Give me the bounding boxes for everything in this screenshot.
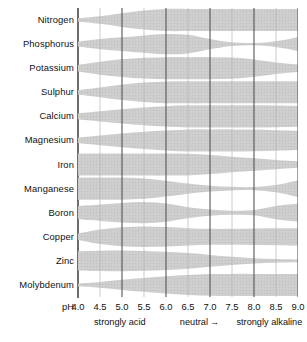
nutrient-label-magnesium: Magnesium <box>0 135 74 145</box>
x-tick-6.0: 6.0 <box>159 301 172 312</box>
axis-caption-text: strongly acid <box>94 317 146 327</box>
x-tick-9.0: 9.0 <box>291 301 304 312</box>
x-tick-6.5: 6.5 <box>181 301 194 312</box>
x-tick-8.0: 8.0 <box>247 301 260 312</box>
nutrient-label-calcium: Calcium <box>0 111 74 121</box>
x-tick-7.5: 7.5 <box>225 301 238 312</box>
nutrient-ph-chart: NitrogenPhosphorusPotassiumSulphurCalciu… <box>0 0 307 342</box>
x-tick-4.5: 4.5 <box>93 301 106 312</box>
nutrient-label-zinc: Zinc <box>0 256 74 266</box>
axis-caption-text: strongly alkaline <box>236 317 302 327</box>
nutrient-label-sulphur: Sulphur <box>0 87 74 97</box>
nutrient-label-iron: Iron <box>0 160 74 170</box>
axis-caption-strongly-alkaline: strongly alkaline <box>236 317 302 328</box>
plot-area <box>78 8 298 297</box>
axis-caption-strongly-acid: strongly acid <box>94 317 146 328</box>
ph-axis-prefix: pH <box>48 301 74 312</box>
right-arrow-icon: → <box>208 317 218 328</box>
x-axis: pH 4.04.55.05.56.06.57.07.58.08.59.0stro… <box>0 298 307 342</box>
x-tick-8.5: 8.5 <box>269 301 282 312</box>
nutrient-label-boron: Boron <box>0 208 74 218</box>
axis-caption-neutral: neutral→ <box>180 317 218 328</box>
nutrient-label-phosphorus: Phosphorus <box>0 39 74 49</box>
nutrient-label-potassium: Potassium <box>0 63 74 73</box>
x-tick-7.0: 7.0 <box>203 301 216 312</box>
nutrient-label-nitrogen: Nitrogen <box>0 15 74 25</box>
axis-caption-text: neutral <box>180 317 208 327</box>
x-tick-5.5: 5.5 <box>137 301 150 312</box>
x-tick-5.0: 5.0 <box>115 301 128 312</box>
nutrient-label-copper: Copper <box>0 232 74 242</box>
nutrient-label-molybdenum: Molybdenum <box>0 280 74 290</box>
availability-bands-svg <box>78 8 298 297</box>
x-tick-4.0: 4.0 <box>71 301 84 312</box>
nutrient-label-manganese: Manganese <box>0 184 74 194</box>
